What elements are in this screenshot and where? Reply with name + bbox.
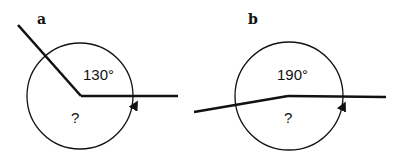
panel-b-arrow-icon [336, 105, 344, 122]
panel-b-ray-right [288, 96, 386, 97]
panel-a-given-angle: 130° [83, 66, 114, 83]
panel-a-label: a [37, 11, 46, 27]
panel-a: a 130° ? [18, 11, 178, 149]
panel-b-ray-left [194, 96, 288, 112]
panel-a-arc-helper [80, 106, 133, 149]
panel-b: b 190° ? [194, 11, 386, 150]
angle-diagram: a 130° ? b 190° ? [0, 0, 407, 165]
panel-b-given-angle: 190° [277, 66, 308, 83]
panel-b-unknown-angle: ? [284, 109, 292, 126]
panel-b-label: b [248, 11, 258, 27]
panel-a-unknown-angle: ? [71, 109, 79, 126]
